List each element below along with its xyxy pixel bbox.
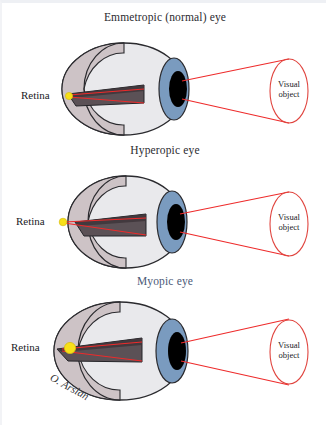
retina-label-myopic: Retina (11, 341, 40, 353)
visual-object-line1-emmetropic: Visual (278, 79, 300, 89)
light-ray-lower-external-myopic (181, 361, 289, 385)
visual-object-line2-myopic: object (279, 350, 300, 360)
focal-point-myopic (64, 342, 75, 353)
eye-illustration-emmetropic (2, 11, 326, 144)
visual-object-line2-hyperopic: object (279, 222, 300, 232)
retina-label-hyperopic: Retina (16, 215, 45, 227)
eye-illustration-hyperopic (2, 144, 326, 277)
visual-object-label-emmetropic: Visual object (270, 80, 308, 99)
visual-object-line1-hyperopic: Visual (278, 212, 300, 222)
pupil-emmetropic (169, 71, 187, 107)
diagram-panel-emmetropic: Emmetropic (normal) eye (2, 11, 326, 144)
diagram-panel-myopic: Myopic eye Retina Visual object O. Arsla… (2, 275, 326, 425)
light-ray-upper-external-myopic (181, 319, 289, 343)
retina-label-emmetropic: Retina (21, 89, 50, 101)
light-ray-lower-external-hyperopic (180, 232, 289, 256)
pupil-hyperopic (167, 204, 185, 240)
visual-object-label-hyperopic: Visual object (270, 213, 308, 232)
focal-point-emmetropic (65, 92, 72, 99)
figure-frame: Emmetropic (normal) eye (0, 0, 326, 425)
pupil-myopic (168, 332, 186, 370)
light-ray-upper-external-emmetropic (182, 59, 289, 81)
focal-point-hyperopic (59, 218, 67, 226)
visual-object-label-myopic: Visual object (270, 341, 308, 360)
visual-object-line1-myopic: Visual (278, 340, 300, 350)
light-ray-upper-external-hyperopic (180, 192, 289, 214)
visual-object-line2-emmetropic: object (279, 89, 300, 99)
light-ray-lower-external-emmetropic (182, 99, 289, 123)
diagram-panel-hyperopic: Hyperopic eye Retina Visual object (2, 144, 326, 277)
